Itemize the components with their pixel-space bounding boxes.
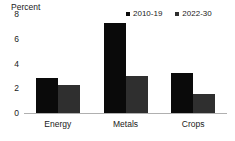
- bar: [36, 78, 58, 113]
- bar: [104, 23, 126, 113]
- bar-group: [159, 14, 227, 113]
- bar: [126, 76, 148, 113]
- x-axis-baseline: [24, 113, 227, 114]
- y-tick-label: 8: [14, 10, 19, 19]
- bar: [58, 85, 80, 113]
- x-axis-labels: Energy Metals Crops: [24, 119, 227, 130]
- y-axis: 8 6 4 2 0: [0, 14, 22, 114]
- x-tick-label: Metals: [92, 119, 160, 130]
- bar: [193, 94, 215, 113]
- y-tick-label: 0: [14, 109, 19, 118]
- y-tick-label: 6: [14, 34, 19, 43]
- bar-chart: Percent 2010-19 2022-30 8 6 4 2 0: [0, 0, 235, 141]
- x-tick-label: Crops: [159, 119, 227, 130]
- bar-group: [24, 14, 92, 113]
- bar: [171, 73, 193, 113]
- plot-area: [24, 14, 227, 113]
- bar-group: [92, 14, 160, 113]
- y-tick-label: 2: [14, 84, 19, 93]
- x-tick-label: Energy: [24, 119, 92, 130]
- y-tick-label: 4: [14, 59, 19, 68]
